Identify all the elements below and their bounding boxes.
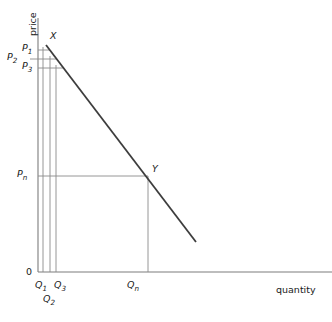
- quantity-tick-q2-sub: 2: [50, 298, 55, 307]
- origin-label: 0: [26, 267, 32, 277]
- price-tick-p2-sub: 2: [13, 56, 18, 65]
- price-tick-p2: P2: [7, 52, 17, 64]
- y-axis-label: price: [28, 12, 38, 36]
- price-tick-p1-sub: 1: [28, 47, 33, 56]
- plot-canvas: [0, 0, 332, 322]
- point-label-x: X: [50, 31, 57, 41]
- price-tick-p3: P3: [22, 61, 32, 73]
- quantity-tick-qn: Qn: [127, 280, 139, 292]
- price-tick-pn-sub: n: [23, 173, 28, 182]
- quantity-tick-q2: Q2: [43, 294, 55, 306]
- price-tick-p1: P1: [22, 43, 32, 55]
- quantity-tick-qn-sub: n: [134, 284, 139, 293]
- demand-curve: [46, 45, 196, 242]
- point-label-y: Y: [152, 164, 158, 174]
- x-axis-label: quantity: [276, 285, 316, 295]
- price-tick-p3-sub: 3: [28, 65, 33, 74]
- quantity-tick-q3: Q3: [54, 280, 66, 292]
- quantity-tick-q1: Q1: [35, 280, 47, 292]
- quantity-tick-q1-sub: 1: [42, 284, 47, 293]
- demand-curve-figure: price quantity 0 X Y P1 P2 P3 Pn Q1 Q2 Q…: [0, 0, 332, 322]
- quantity-tick-q3-sub: 3: [61, 284, 66, 293]
- price-tick-pn: Pn: [17, 169, 27, 181]
